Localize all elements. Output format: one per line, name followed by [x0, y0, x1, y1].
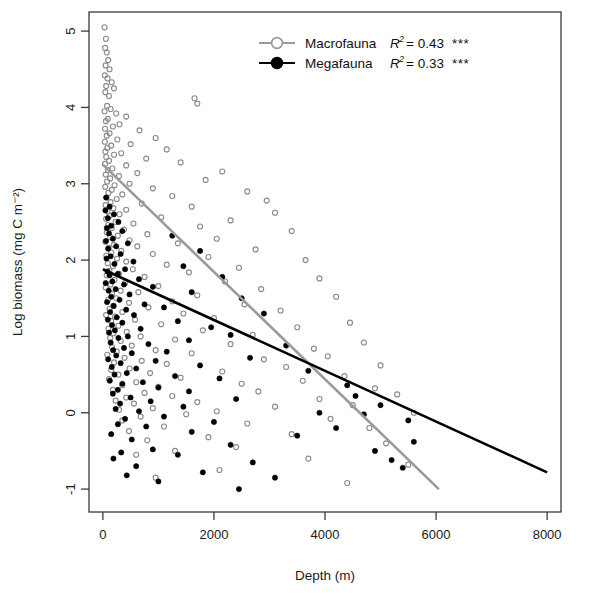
data-point	[127, 292, 132, 297]
data-point	[121, 345, 126, 350]
data-point	[175, 319, 180, 324]
data-point	[111, 212, 116, 217]
data-point	[131, 312, 136, 317]
data-point	[120, 320, 125, 325]
data-point	[295, 433, 300, 438]
y-tick-label: 3	[64, 180, 79, 187]
x-tick-label: 8000	[533, 527, 562, 542]
data-point	[217, 376, 222, 381]
data-point	[175, 452, 180, 457]
data-point	[136, 409, 141, 414]
data-point	[109, 364, 114, 369]
data-point	[104, 195, 109, 200]
data-point	[156, 385, 161, 390]
data-point	[124, 307, 129, 312]
data-point	[108, 309, 113, 314]
legend-macro-label: Macrofauna	[305, 36, 377, 51]
data-point	[181, 404, 186, 409]
y-axis-title: Log biomass (mg C m⁻²)	[10, 188, 25, 336]
data-point	[110, 236, 115, 241]
data-point	[156, 479, 161, 484]
data-point	[118, 361, 123, 366]
legend-mega-label: Megafauna	[305, 56, 373, 71]
data-point	[106, 288, 111, 293]
data-point	[306, 368, 311, 373]
data-point	[353, 393, 358, 398]
y-tick-label: 4	[64, 104, 79, 111]
plot-canvas: 02000400060008000 -1012345 Depth (m) Log…	[0, 0, 591, 594]
data-point	[105, 317, 110, 322]
data-point	[228, 332, 233, 337]
data-point	[234, 396, 239, 401]
data-point	[236, 487, 241, 492]
data-point	[153, 358, 158, 363]
data-point	[110, 279, 115, 284]
y-tick-label: 5	[64, 27, 79, 34]
data-point	[150, 447, 155, 452]
data-point	[228, 442, 233, 447]
data-point	[272, 475, 277, 480]
data-point	[114, 244, 119, 249]
x-tick-label: 0	[99, 527, 106, 542]
data-point	[128, 395, 133, 400]
data-point	[186, 389, 191, 394]
data-point	[136, 277, 141, 282]
data-point	[122, 416, 127, 421]
data-point	[103, 280, 108, 285]
data-point	[172, 374, 177, 379]
legend-macro-stat-value: = 0.43	[406, 36, 444, 51]
data-point	[181, 264, 186, 269]
y-tick-label: -1	[64, 483, 79, 495]
data-point	[129, 437, 134, 442]
data-point	[108, 340, 113, 345]
data-point	[209, 325, 214, 330]
data-point	[106, 246, 111, 251]
data-point	[150, 284, 155, 289]
data-point	[104, 299, 109, 304]
data-point	[116, 219, 121, 224]
data-point	[106, 231, 111, 236]
y-tick-label: 2	[64, 256, 79, 263]
data-point	[104, 256, 109, 261]
data-point	[406, 418, 411, 423]
data-point	[372, 448, 377, 453]
data-point	[106, 357, 111, 362]
data-point	[186, 338, 191, 343]
data-point	[125, 241, 130, 246]
data-point	[161, 305, 166, 310]
data-point	[115, 422, 120, 427]
data-point	[112, 328, 117, 333]
data-point	[105, 216, 110, 221]
data-point	[112, 372, 117, 377]
x-axis-title: Depth (m)	[295, 568, 355, 583]
legend-mega-significance: ***	[452, 56, 470, 71]
data-point	[164, 349, 169, 354]
data-point	[109, 294, 114, 299]
data-point	[134, 464, 139, 469]
data-point	[111, 456, 116, 461]
data-point	[109, 322, 114, 327]
data-point	[124, 473, 129, 478]
legend-mega-filled-circle-icon	[272, 58, 283, 69]
data-point	[120, 381, 125, 386]
data-point	[110, 391, 115, 396]
data-point	[200, 470, 205, 475]
data-point	[161, 414, 166, 419]
data-point	[112, 261, 117, 266]
data-point	[250, 460, 255, 465]
data-point	[144, 424, 149, 429]
data-point	[389, 457, 394, 462]
data-point	[211, 419, 216, 424]
data-point	[111, 303, 116, 308]
data-point	[117, 297, 122, 302]
data-point	[411, 439, 416, 444]
data-point	[109, 432, 114, 437]
data-point	[378, 403, 383, 408]
legend-mega-stat-exponent: 2	[398, 54, 404, 64]
data-point	[189, 290, 194, 295]
data-point	[189, 429, 194, 434]
data-point	[114, 353, 119, 358]
data-point	[261, 311, 266, 316]
data-point	[107, 204, 112, 209]
y-tick-label: 1	[64, 333, 79, 340]
